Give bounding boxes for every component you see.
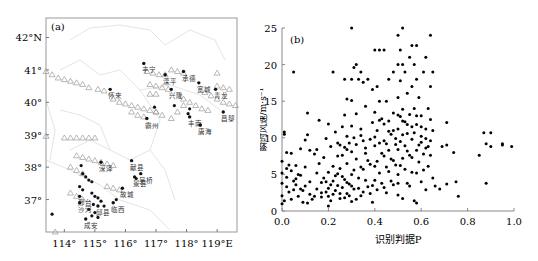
station-dot bbox=[214, 88, 217, 91]
data-point bbox=[350, 173, 353, 176]
data-point bbox=[366, 159, 369, 162]
data-point bbox=[452, 151, 455, 154]
panel-label-a: (a) bbox=[51, 21, 65, 32]
station-dot bbox=[78, 185, 81, 188]
x-tick-label: 1.0 bbox=[506, 216, 522, 227]
data-point bbox=[410, 171, 413, 174]
data-point bbox=[420, 141, 423, 144]
station-label: 丰宁 bbox=[142, 65, 156, 74]
data-point bbox=[399, 79, 402, 82]
station-dot bbox=[222, 110, 225, 113]
x-tick-label: 0.8 bbox=[460, 216, 476, 227]
data-point bbox=[320, 181, 323, 184]
data-point bbox=[429, 139, 432, 142]
data-point bbox=[306, 133, 309, 136]
data-point bbox=[348, 141, 351, 144]
data-point bbox=[420, 135, 423, 138]
data-point bbox=[332, 193, 335, 196]
station-label: 怀来 bbox=[108, 91, 122, 100]
triangle-marker bbox=[226, 86, 232, 91]
station-dot bbox=[145, 117, 148, 120]
data-point bbox=[383, 122, 386, 125]
data-point bbox=[387, 78, 390, 81]
y-tick-label: 25 bbox=[264, 23, 277, 34]
data-point bbox=[343, 114, 346, 117]
station-dot bbox=[80, 164, 83, 167]
data-point bbox=[283, 130, 286, 133]
lon-tick-label: 115° bbox=[83, 238, 107, 249]
map-frame bbox=[46, 18, 237, 232]
lat-tick-label: 40° bbox=[24, 97, 42, 108]
data-point bbox=[327, 195, 330, 198]
data-point bbox=[485, 182, 488, 185]
data-point bbox=[410, 156, 413, 159]
station-label: 宽城 bbox=[197, 85, 211, 94]
data-point bbox=[424, 137, 427, 140]
station-dot bbox=[199, 123, 202, 126]
triangle-marker bbox=[80, 81, 86, 86]
data-point bbox=[408, 185, 411, 188]
data-point bbox=[292, 70, 295, 73]
data-point bbox=[420, 125, 423, 128]
data-point bbox=[406, 182, 409, 185]
data-point bbox=[304, 138, 307, 141]
data-point bbox=[387, 130, 390, 133]
triangle-marker bbox=[187, 99, 193, 104]
station-label: 故城 bbox=[120, 190, 134, 199]
data-point bbox=[343, 146, 346, 149]
data-point bbox=[299, 147, 302, 150]
station-dot bbox=[133, 175, 136, 178]
station-dot bbox=[182, 70, 185, 73]
data-point bbox=[299, 188, 302, 191]
lat-tick-label: 38° bbox=[24, 162, 42, 173]
station-label: 邱县 bbox=[96, 209, 110, 217]
station-label: 深泽 bbox=[99, 164, 113, 173]
data-point bbox=[287, 163, 290, 166]
data-point bbox=[417, 160, 420, 163]
data-point bbox=[380, 152, 383, 155]
data-point bbox=[420, 114, 423, 117]
triangle-marker bbox=[153, 91, 159, 96]
data-point bbox=[369, 192, 372, 195]
data-point bbox=[422, 169, 425, 172]
triangle-marker bbox=[101, 88, 107, 93]
data-point bbox=[345, 98, 348, 101]
data-point bbox=[397, 193, 400, 196]
data-point bbox=[318, 162, 321, 165]
data-point bbox=[352, 169, 355, 172]
data-point bbox=[281, 194, 284, 197]
data-point bbox=[429, 154, 432, 157]
data-point bbox=[329, 199, 332, 202]
data-point bbox=[334, 130, 337, 133]
data-point bbox=[336, 172, 339, 175]
data-point bbox=[401, 119, 404, 122]
triangle-marker bbox=[55, 75, 61, 80]
x-tick-label: 0.6 bbox=[413, 216, 429, 227]
station-dot bbox=[115, 198, 118, 201]
data-point bbox=[485, 142, 488, 145]
triangle-marker bbox=[168, 67, 174, 72]
station-dot bbox=[90, 180, 93, 183]
data-point bbox=[387, 170, 390, 173]
data-point bbox=[355, 63, 358, 66]
data-point bbox=[397, 63, 400, 66]
station-dot bbox=[78, 201, 81, 204]
triangle-marker bbox=[86, 135, 92, 140]
triangle-marker bbox=[129, 109, 135, 114]
data-point bbox=[427, 107, 430, 110]
data-point bbox=[301, 201, 304, 204]
station-label: 霸州 bbox=[145, 122, 159, 130]
data-point bbox=[397, 182, 400, 185]
data-point bbox=[408, 113, 411, 116]
data-point bbox=[292, 188, 295, 191]
data-point bbox=[350, 200, 353, 203]
data-point bbox=[417, 144, 420, 147]
data-point bbox=[489, 145, 492, 148]
data-point bbox=[285, 167, 288, 170]
data-point bbox=[413, 107, 416, 110]
data-point bbox=[394, 163, 397, 166]
station-dot bbox=[90, 214, 93, 217]
data-point bbox=[410, 44, 413, 47]
station-label: 吴桥 bbox=[139, 176, 153, 185]
station-dot bbox=[187, 112, 190, 115]
